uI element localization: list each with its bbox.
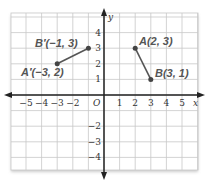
arrow-right-icon xyxy=(197,92,205,98)
coordinate-plane: x y O −5−4−3−212345 4321−2−3−4 B′(−1, 3)… xyxy=(0,0,208,184)
label-a-prime: A′(−3, 2) xyxy=(20,66,64,78)
y-tick-label: 3 xyxy=(95,43,101,53)
arrow-up-icon xyxy=(101,8,107,16)
x-tick-label: 4 xyxy=(164,98,170,108)
point-b-prime xyxy=(86,46,91,51)
point-a xyxy=(133,46,138,51)
x-tick-label: 2 xyxy=(132,98,138,108)
origin-label: O xyxy=(93,98,101,108)
arrow-left-icon xyxy=(4,92,12,98)
label-a: A(2, 3) xyxy=(138,35,173,47)
y-tick-label: −2 xyxy=(88,121,101,131)
y-axis-label: y xyxy=(107,12,114,22)
y-tick-label: −4 xyxy=(88,152,102,162)
y-tick-label: 4 xyxy=(95,28,101,38)
x-tick-label: −2 xyxy=(66,98,79,108)
x-tick-label: 5 xyxy=(179,98,185,108)
label-b-prime: B′(−1, 3) xyxy=(35,37,78,49)
point-b xyxy=(148,77,153,82)
x-tick-label: −5 xyxy=(19,98,33,108)
y-tick-label: −3 xyxy=(88,137,102,147)
y-tick-label: 1 xyxy=(95,74,101,84)
x-tick-label: 1 xyxy=(117,98,123,108)
x-tick-label: −4 xyxy=(35,98,49,108)
arrow-down-icon xyxy=(101,172,107,180)
label-b: B(3, 1) xyxy=(155,67,189,79)
y-tick-label: 2 xyxy=(95,59,101,69)
x-axis-label: x xyxy=(193,98,198,108)
x-tick-label: 3 xyxy=(148,98,154,108)
x-tick-label: −3 xyxy=(51,98,65,108)
